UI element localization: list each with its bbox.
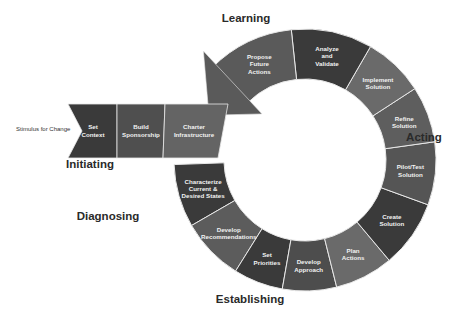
stimulus-for-change-label: Stimulus for Change xyxy=(16,126,71,132)
label-implement-solution: ImplementSolution xyxy=(362,76,393,90)
label-pilot-test-solution: Pilot/TestSolution xyxy=(397,163,424,177)
ideal-cycle-diagram: CharacterizeCurrent &Desired StatesDevel… xyxy=(0,0,473,321)
label-propose-future-actions: ProposeFutureActions xyxy=(247,53,272,74)
phase-initiating: Initiating xyxy=(66,158,114,170)
phase-establishing: Establishing xyxy=(216,293,284,305)
phase-diagnosing: Diagnosing xyxy=(77,210,140,222)
phase-acting: Acting xyxy=(406,131,442,143)
phase-learning: Learning xyxy=(222,12,271,24)
label-develop-approach: DevelopApproach xyxy=(294,258,323,272)
label-refine-solution: RefineSolution xyxy=(392,115,417,129)
label-create-solution: CreateSolution xyxy=(379,213,404,227)
